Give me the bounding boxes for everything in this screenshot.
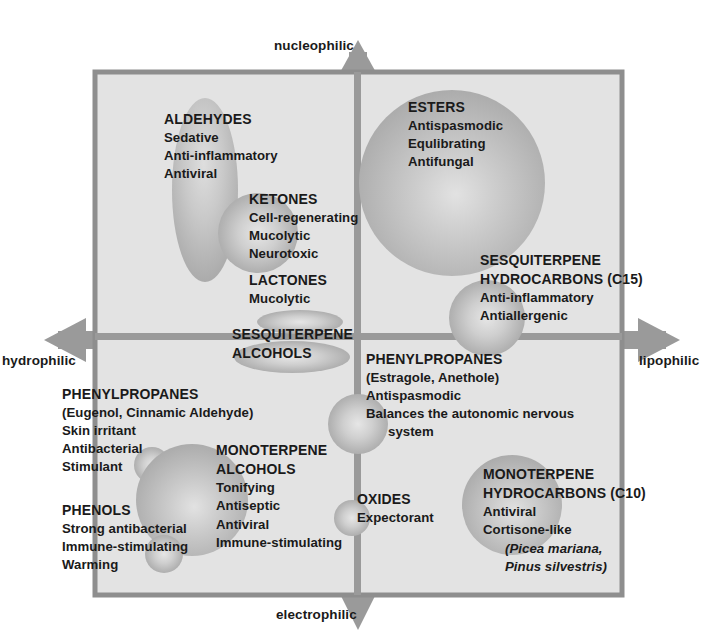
group-monoterpene-alcohols-prop-1: Antiseptic bbox=[216, 497, 342, 515]
group-sesquiterpene-hydrocarbons: SESQUITERPENE HYDROCARBONS (C15) Anti-in… bbox=[480, 251, 643, 326]
group-sesquiterpene-hydrocarbons-prop-1: Antiallergenic bbox=[480, 307, 643, 325]
group-aldehydes: ALDEHYDES Sedative Anti-inflammatory Ant… bbox=[164, 110, 278, 183]
group-phenols-prop-0: Strong antibacterial bbox=[62, 520, 188, 538]
group-phenylpropanes-left-subtitle: (Eugenol, Cinnamic Aldehyde) bbox=[62, 404, 253, 422]
group-monoterpene-hydrocarbons-title-1: MONOTERPENE bbox=[483, 465, 646, 484]
group-phenylpropanes-right-title: PHENYLPROPANES bbox=[366, 350, 574, 369]
group-phenylpropanes-right-prop-0: Antispasmodic bbox=[366, 387, 574, 405]
group-ketones: KETONES Cell-regenerating Mucolytic Neur… bbox=[249, 190, 358, 263]
group-monoterpene-hydrocarbons-prop-0: Antiviral bbox=[483, 503, 646, 521]
group-phenylpropanes-right-subtitle: (Estragole, Anethole) bbox=[366, 369, 574, 387]
group-sesquiterpene-hydrocarbons-title-1: SESQUITERPENE bbox=[480, 251, 643, 270]
group-phenols-title: PHENOLS bbox=[62, 501, 188, 520]
group-monoterpene-alcohols-title-1: MONOTERPENE bbox=[216, 441, 342, 460]
group-ketones-prop-2: Neurotoxic bbox=[249, 245, 358, 263]
group-esters-prop-2: Antifungal bbox=[408, 153, 503, 171]
group-oxides-title: OXIDES bbox=[357, 490, 434, 509]
group-lactones: LACTONES Mucolytic bbox=[249, 271, 327, 308]
group-phenylpropanes-right: PHENYLPROPANES (Estragole, Anethole) Ant… bbox=[366, 350, 574, 441]
group-phenols-prop-1: Immune-stimulating bbox=[62, 538, 188, 556]
group-monoterpene-hydrocarbons-species-1: (Picea mariana, bbox=[483, 540, 646, 558]
group-oxides-prop-0: Expectorant bbox=[357, 509, 434, 527]
group-lactones-prop-0: Mucolytic bbox=[249, 290, 327, 308]
group-monoterpene-alcohols-prop-0: Tonifying bbox=[216, 479, 342, 497]
group-monoterpene-hydrocarbons-title-2: HYDROCARBONS (C10) bbox=[483, 484, 646, 503]
group-phenols-prop-2: Warming bbox=[62, 556, 188, 574]
group-sesquiterpene-alcohols-title-1: SESQUITERPENE bbox=[232, 325, 353, 344]
group-aldehydes-title: ALDEHYDES bbox=[164, 110, 278, 129]
group-oxides: OXIDES Expectorant bbox=[357, 490, 434, 527]
axis-label-hydrophilic: hydrophilic bbox=[2, 353, 76, 368]
group-sesquiterpene-alcohols: SESQUITERPENE ALCOHOLS bbox=[232, 325, 353, 363]
group-monoterpene-hydrocarbons: MONOTERPENE HYDROCARBONS (C10) Antiviral… bbox=[483, 465, 646, 576]
group-ketones-title: KETONES bbox=[249, 190, 358, 209]
group-lactones-title: LACTONES bbox=[249, 271, 327, 290]
group-phenols: PHENOLS Strong antibacterial Immune-stim… bbox=[62, 501, 188, 574]
group-monoterpene-alcohols-prop-2: Antiviral bbox=[216, 516, 342, 534]
group-monoterpene-hydrocarbons-prop-1: Cortisone-like bbox=[483, 521, 646, 539]
group-phenylpropanes-left-prop-0: Skin irritant bbox=[62, 422, 253, 440]
group-phenylpropanes-right-prop-2: system bbox=[366, 423, 574, 441]
axis-label-lipophilic: lipophilic bbox=[639, 353, 699, 368]
group-phenylpropanes-right-prop-1: Balances the autonomic nervous bbox=[366, 405, 574, 423]
group-sesquiterpene-alcohols-title-2: ALCOHOLS bbox=[232, 344, 353, 363]
group-esters: ESTERS Antispasmodic Equlibrating Antifu… bbox=[408, 98, 503, 171]
group-sesquiterpene-hydrocarbons-title-2: HYDROCARBONS (C15) bbox=[480, 270, 643, 289]
group-esters-prop-1: Equlibrating bbox=[408, 135, 503, 153]
group-aldehydes-prop-2: Antiviral bbox=[164, 165, 278, 183]
group-monoterpene-hydrocarbons-species-2: Pinus silvestris) bbox=[483, 558, 646, 576]
group-esters-title: ESTERS bbox=[408, 98, 503, 117]
axis-label-electrophilic: electrophilic bbox=[276, 607, 357, 622]
group-aldehydes-prop-0: Sedative bbox=[164, 129, 278, 147]
group-aldehydes-prop-1: Anti-inflammatory bbox=[164, 147, 278, 165]
diagram-canvas: nucleophilic electrophilic hydrophilic l… bbox=[0, 0, 724, 643]
group-esters-prop-0: Antispasmodic bbox=[408, 117, 503, 135]
group-monoterpene-alcohols: MONOTERPENE ALCOHOLS Tonifying Antisepti… bbox=[216, 441, 342, 552]
group-phenylpropanes-left-title: PHENYLPROPANES bbox=[62, 385, 253, 404]
group-monoterpene-alcohols-title-2: ALCOHOLS bbox=[216, 460, 342, 479]
group-monoterpene-alcohols-prop-3: Immune-stimulating bbox=[216, 534, 342, 552]
group-ketones-prop-1: Mucolytic bbox=[249, 227, 358, 245]
axis-label-nucleophilic: nucleophilic bbox=[274, 38, 354, 53]
group-sesquiterpene-hydrocarbons-prop-0: Anti-inflammatory bbox=[480, 289, 643, 307]
group-ketones-prop-0: Cell-regenerating bbox=[249, 209, 358, 227]
